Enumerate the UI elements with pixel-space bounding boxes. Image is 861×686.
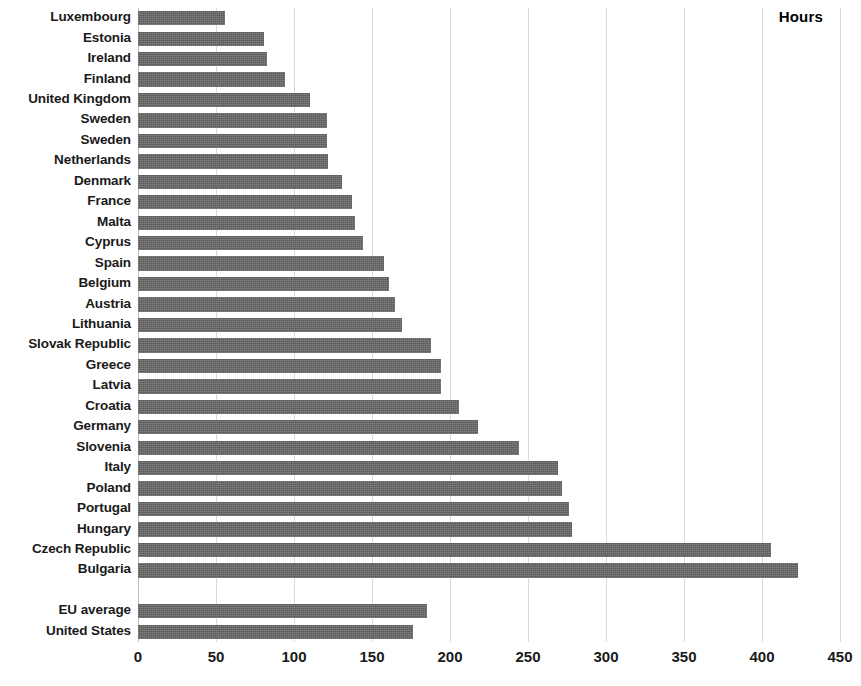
bar-row[interactable] (138, 543, 840, 557)
bar-row[interactable] (138, 379, 840, 393)
bar[interactable] (138, 134, 327, 148)
bar-row[interactable] (138, 522, 840, 536)
bar[interactable] (138, 502, 569, 516)
bar-row[interactable] (138, 359, 840, 373)
gridline-450 (840, 8, 841, 642)
bar[interactable] (138, 297, 395, 311)
category-label: Slovak Republic (0, 336, 131, 351)
bar[interactable] (138, 543, 771, 557)
category-label: Bulgaria (0, 561, 131, 576)
bar-row[interactable] (138, 134, 840, 148)
category-label: Cyprus (0, 234, 131, 249)
category-label: Spain (0, 255, 131, 270)
category-label: Greece (0, 357, 131, 372)
category-label: Luxembourg (0, 9, 131, 24)
category-label: Poland (0, 480, 131, 495)
bar[interactable] (138, 359, 441, 373)
bar[interactable] (138, 522, 572, 536)
bar[interactable] (138, 175, 342, 189)
bar-row[interactable] (138, 297, 840, 311)
bar-row[interactable] (138, 318, 840, 332)
bar[interactable] (138, 563, 798, 577)
bar[interactable] (138, 216, 355, 230)
category-label: Czech Republic (0, 541, 131, 556)
bar[interactable] (138, 93, 310, 107)
bar-row[interactable] (138, 441, 840, 455)
bar[interactable] (138, 441, 519, 455)
bar-chart-figure: Hours LuxembourgEstoniaIrelandFinlandUni… (0, 0, 861, 686)
bar-row[interactable] (138, 32, 840, 46)
bar[interactable] (138, 195, 352, 209)
bar[interactable] (138, 113, 327, 127)
bar[interactable] (138, 236, 363, 250)
category-label: Austria (0, 296, 131, 311)
bar[interactable] (138, 11, 225, 25)
bar[interactable] (138, 318, 402, 332)
bar-row[interactable] (138, 52, 840, 66)
category-label: Croatia (0, 398, 131, 413)
x-tick-label: 350 (671, 648, 696, 665)
category-label: Latvia (0, 377, 131, 392)
category-label: Estonia (0, 30, 131, 45)
bar[interactable] (138, 32, 264, 46)
bar-row[interactable] (138, 256, 840, 270)
bar-row[interactable] (138, 604, 840, 618)
bar[interactable] (138, 625, 413, 639)
category-label: Ireland (0, 50, 131, 65)
bar-row[interactable] (138, 420, 840, 434)
category-label: Sweden (0, 111, 131, 126)
category-label: United Kingdom (0, 91, 131, 106)
bar[interactable] (138, 72, 285, 86)
bar[interactable] (138, 481, 562, 495)
x-tick-label: 300 (593, 648, 618, 665)
plot-area (138, 8, 840, 642)
x-tick-label: 400 (749, 648, 774, 665)
category-label: Denmark (0, 173, 131, 188)
x-tick-label: 0 (134, 648, 142, 665)
category-label: Portugal (0, 500, 131, 515)
bar-row[interactable] (138, 11, 840, 25)
category-label: Finland (0, 71, 131, 86)
category-label: Malta (0, 214, 131, 229)
bar-row[interactable] (138, 277, 840, 291)
bar-row[interactable] (138, 195, 840, 209)
bar-row[interactable] (138, 236, 840, 250)
category-label: United States (0, 623, 131, 638)
bar[interactable] (138, 400, 459, 414)
category-label: Slovenia (0, 439, 131, 454)
bar[interactable] (138, 461, 558, 475)
category-label: Italy (0, 459, 131, 474)
category-label: Sweden (0, 132, 131, 147)
bar-row[interactable] (138, 338, 840, 352)
x-tick-label: 200 (437, 648, 462, 665)
bar[interactable] (138, 277, 389, 291)
bar-row[interactable] (138, 481, 840, 495)
bar[interactable] (138, 256, 384, 270)
bar[interactable] (138, 52, 267, 66)
bar-row[interactable] (138, 563, 840, 577)
bar-row[interactable] (138, 461, 840, 475)
category-label: EU average (0, 602, 131, 617)
bar-row[interactable] (138, 93, 840, 107)
category-label: Lithuania (0, 316, 131, 331)
bar-rows (138, 8, 840, 642)
bar[interactable] (138, 379, 441, 393)
x-tick-label: 450 (827, 648, 852, 665)
category-label: France (0, 193, 131, 208)
bar[interactable] (138, 604, 427, 618)
bar-row[interactable] (138, 502, 840, 516)
x-axis-tick-labels: 050100150200250300350400450 (138, 648, 840, 674)
x-tick-label: 150 (359, 648, 384, 665)
bar[interactable] (138, 420, 478, 434)
bar-row[interactable] (138, 625, 840, 639)
bar-row[interactable] (138, 113, 840, 127)
x-tick-label: 50 (208, 648, 225, 665)
bar-row[interactable] (138, 154, 840, 168)
bar[interactable] (138, 154, 328, 168)
bar-row[interactable] (138, 400, 840, 414)
bar-row[interactable] (138, 175, 840, 189)
category-label: Hungary (0, 521, 131, 536)
bar-row[interactable] (138, 72, 840, 86)
bar[interactable] (138, 338, 431, 352)
bar-row[interactable] (138, 216, 840, 230)
